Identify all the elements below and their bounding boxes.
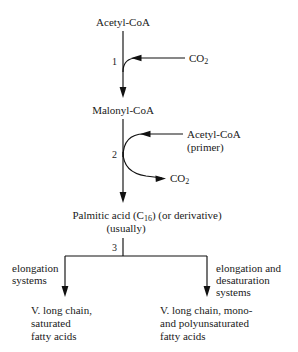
co2-text-step1: CO bbox=[189, 52, 204, 64]
label-left-enzyme-line2: systems bbox=[12, 274, 47, 287]
arrow-co2-input-step1 bbox=[123, 55, 185, 72]
co2-subscript-step1: 2 bbox=[204, 57, 208, 66]
product-left-line3: fatty acids bbox=[31, 330, 77, 343]
node-acetyl-coa-start: Acetyl-CoA bbox=[96, 16, 150, 29]
step-number-3: 3 bbox=[112, 243, 117, 253]
label-acetyl-coa-primer: Acetyl-CoA bbox=[187, 128, 241, 141]
label-right-enzyme-line2: desaturation bbox=[216, 274, 270, 287]
arrow-co2-output-step2 bbox=[123, 152, 166, 182]
node-malonyl-coa: Malonyl-CoA bbox=[92, 104, 154, 117]
node-palmitic-acid: Palmitic acid (C16) (or derivative) bbox=[72, 209, 221, 226]
arrow-acetyl-primer-input-step2 bbox=[123, 131, 183, 157]
label-left-enzyme-line1: elongation bbox=[12, 262, 58, 275]
label-co2-step2: CO2 bbox=[170, 172, 189, 189]
step-number-2: 2 bbox=[112, 150, 117, 160]
product-right-line1: V. long chain, mono- bbox=[160, 304, 252, 317]
product-left-line2: saturated bbox=[31, 317, 71, 330]
fork-step3 bbox=[62, 238, 211, 297]
product-left-line1: V. long chain, bbox=[31, 304, 92, 317]
co2-text-step2: CO bbox=[170, 172, 185, 184]
product-right-line3: fatty acids bbox=[160, 330, 206, 343]
arrow-malonyl-to-palmitic bbox=[120, 119, 127, 203]
product-right-line2: and polyunsaturated bbox=[160, 317, 249, 330]
palmitic-acid-derivative-text: ) (or derivative) bbox=[152, 209, 222, 221]
label-co2-step1: CO2 bbox=[189, 52, 208, 69]
pathway-arrows-layer bbox=[0, 0, 298, 352]
pathway-diagram: Acetyl-CoA 1 CO2 Malonyl-CoA 2 Acetyl-Co… bbox=[0, 0, 298, 352]
palmitic-acid-text: Palmitic acid (C bbox=[72, 209, 143, 221]
arrow-acetyl-to-malonyl bbox=[120, 31, 127, 98]
label-right-enzyme-line3: systems bbox=[216, 286, 251, 299]
label-acetyl-coa-primer-note: (primer) bbox=[187, 141, 224, 154]
label-right-enzyme-line1: elongation and bbox=[216, 262, 281, 275]
node-palmitic-acid-usually: (usually) bbox=[106, 222, 145, 235]
step-number-1: 1 bbox=[112, 57, 117, 67]
co2-subscript-step2: 2 bbox=[185, 177, 189, 186]
